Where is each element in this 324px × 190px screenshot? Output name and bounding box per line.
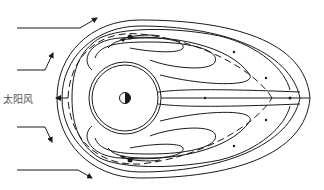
earth-half-shaded-icon bbox=[120, 93, 131, 104]
arrow-bottom bbox=[17, 170, 92, 178]
arrow-lower-mid bbox=[17, 127, 52, 142]
diagram-canvas bbox=[0, 0, 324, 190]
tail-line-lower bbox=[158, 104, 300, 106]
magnetopause-inner bbox=[62, 26, 300, 172]
arrow-upper-mid bbox=[17, 53, 53, 70]
solar-wind-label: 太阳风 bbox=[3, 91, 33, 106]
arrow-top bbox=[17, 18, 97, 28]
tail-line-upper bbox=[158, 90, 300, 92]
magnetosphere-diagram: 太阳风 bbox=[0, 0, 324, 190]
upper-convection-cell bbox=[72, 29, 290, 98]
